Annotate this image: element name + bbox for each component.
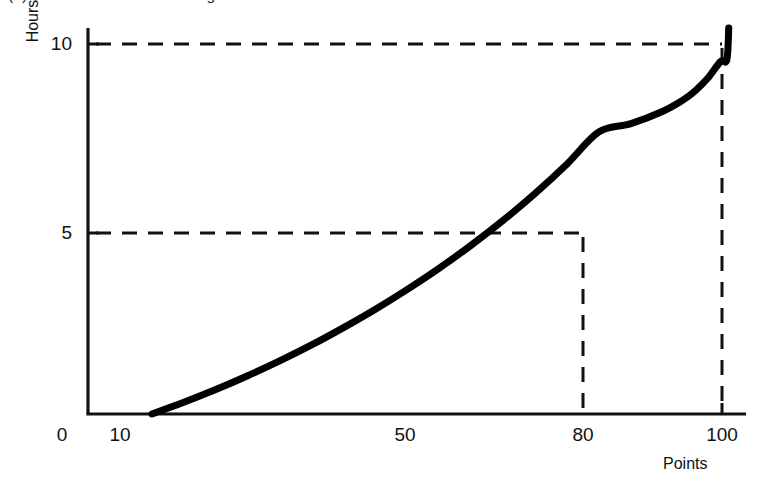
plot-area xyxy=(0,0,765,494)
figure-container: (b) Increases at an increasing rate Hour… xyxy=(0,0,765,494)
data-curve xyxy=(152,28,729,414)
